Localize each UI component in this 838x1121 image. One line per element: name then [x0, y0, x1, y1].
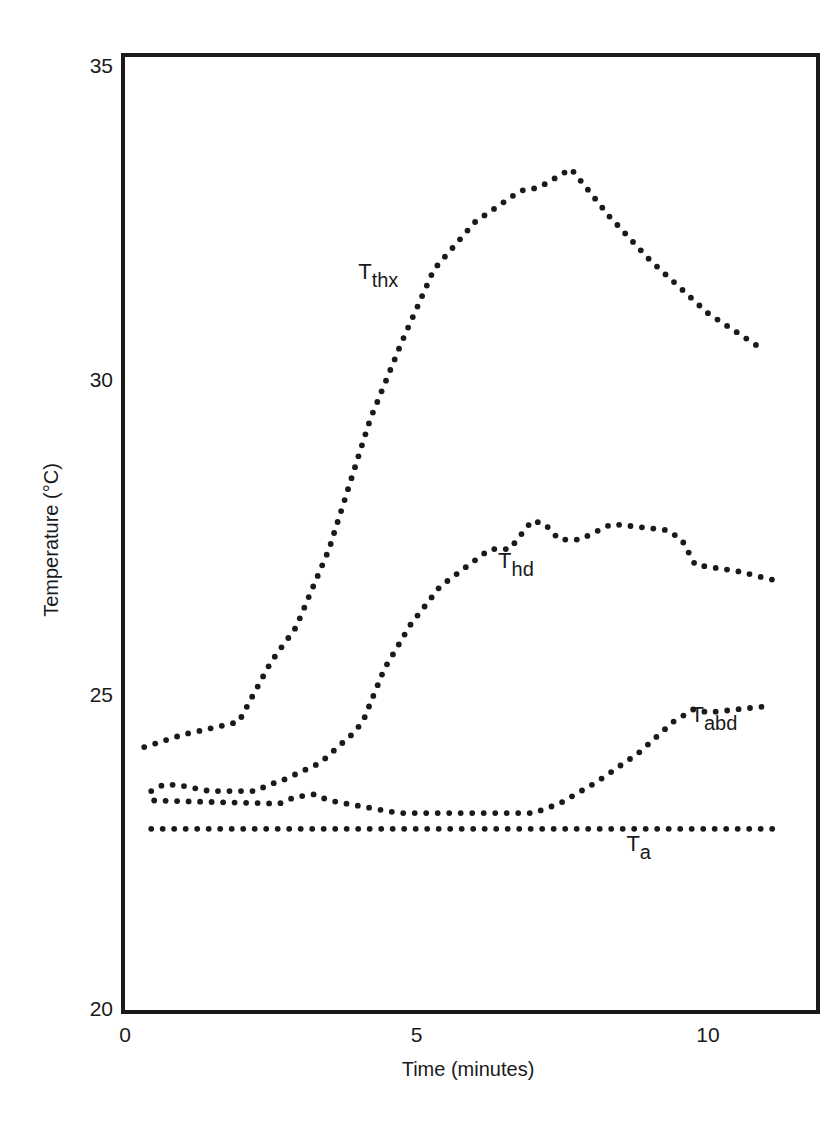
data-dot — [607, 214, 613, 220]
data-dot — [481, 810, 487, 816]
x-axis-title: Time (minutes) — [402, 1058, 535, 1080]
data-dot — [255, 684, 261, 690]
data-dot — [429, 595, 435, 601]
data-dot — [387, 367, 393, 373]
data-dot — [310, 584, 316, 590]
data-dot — [492, 810, 498, 816]
data-dot — [374, 399, 380, 405]
data-dot — [597, 826, 603, 832]
data-dot — [171, 826, 177, 832]
data-dot — [366, 421, 372, 427]
data-dot — [535, 519, 541, 525]
data-dot — [562, 826, 568, 832]
data-dot — [516, 826, 522, 832]
data-dot — [759, 704, 765, 710]
x-tick-label: 5 — [411, 1023, 423, 1046]
series-t-thx — [141, 169, 759, 750]
data-dot — [390, 826, 396, 832]
data-dot — [435, 263, 441, 269]
data-dot — [266, 801, 272, 807]
data-dot — [174, 798, 180, 804]
data-dot — [622, 231, 628, 237]
data-dot — [313, 762, 319, 768]
data-dot — [230, 720, 236, 726]
data-dot — [552, 176, 558, 182]
data-dot — [390, 652, 396, 658]
data-dot — [339, 740, 345, 746]
data-dot — [526, 522, 532, 528]
data-dot — [332, 799, 338, 805]
data-dot — [389, 809, 395, 815]
data-dot — [688, 295, 694, 301]
data-dot — [243, 800, 249, 806]
data-dot — [401, 826, 407, 832]
temperature-time-chart: 20253035 0510 Temperature (°C) Time (min… — [0, 0, 838, 1121]
data-dot — [348, 733, 354, 739]
data-dot — [227, 788, 233, 794]
data-dot — [419, 293, 425, 299]
data-dot — [278, 800, 284, 806]
data-dot — [292, 626, 298, 632]
data-dot — [410, 314, 416, 320]
data-dot — [322, 756, 328, 762]
data-dot — [396, 642, 402, 648]
data-dot — [219, 723, 225, 729]
data-dot — [677, 826, 683, 832]
data-dot — [736, 569, 742, 575]
data-dot — [429, 272, 435, 278]
data-dot — [599, 205, 605, 211]
data-dot — [585, 187, 591, 193]
data-dot — [454, 571, 460, 577]
data-dot — [553, 533, 559, 539]
label-t-abd: Tabd — [691, 702, 738, 734]
data-dot — [493, 826, 499, 832]
data-dot — [436, 585, 442, 591]
data-dot — [412, 810, 418, 816]
data-dot — [423, 810, 429, 816]
data-dot — [539, 826, 545, 832]
data-dot — [562, 537, 568, 543]
data-dot — [319, 562, 325, 568]
data-dot — [515, 810, 521, 816]
data-dot — [681, 713, 687, 719]
series-labels: TthxThdTabdTa — [358, 259, 737, 863]
data-dot — [321, 796, 327, 802]
data-dot — [232, 800, 238, 806]
data-dot — [712, 826, 718, 832]
data-dot — [379, 388, 385, 394]
data-dot — [363, 431, 369, 437]
data-dot — [472, 557, 478, 563]
data-dot — [747, 705, 753, 711]
data-series — [141, 169, 775, 832]
data-dot — [691, 560, 697, 566]
data-dot — [545, 524, 551, 530]
data-dot — [666, 826, 672, 832]
data-dot — [272, 654, 278, 660]
data-dot — [715, 317, 721, 323]
data-dot — [671, 279, 677, 285]
data-dot — [538, 808, 544, 814]
data-dot — [249, 694, 255, 700]
data-dot — [148, 826, 154, 832]
data-dot — [636, 749, 642, 755]
data-dot — [450, 245, 456, 251]
data-dot — [359, 442, 365, 448]
data-dot — [408, 622, 414, 628]
data-dot — [204, 788, 210, 794]
data-dot — [255, 800, 261, 806]
series-t-hd — [148, 519, 775, 794]
data-dot — [574, 826, 580, 832]
data-dot — [469, 810, 475, 816]
data-dot — [743, 336, 749, 342]
data-dot — [298, 826, 304, 832]
data-dot — [181, 783, 187, 789]
data-dot — [689, 826, 695, 832]
data-dot — [415, 304, 421, 310]
data-dot — [491, 546, 497, 552]
data-dot — [309, 826, 315, 832]
data-dot — [331, 530, 337, 536]
data-dot — [501, 199, 507, 205]
data-dot — [217, 826, 223, 832]
data-dot — [671, 719, 677, 725]
data-dot — [447, 826, 453, 832]
